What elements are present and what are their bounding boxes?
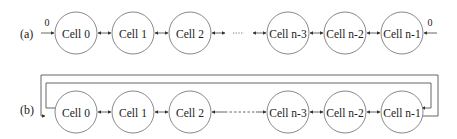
- wrap-loop-inner: [46, 83, 431, 108]
- cell-label: Cell 2: [176, 28, 204, 40]
- right-boundary-value: 0: [428, 17, 433, 28]
- row-a-label: (a): [20, 27, 33, 41]
- row-b: (b) Cell 0 Cell 1 Cell 2 Cell n-3 Cell n…: [20, 75, 438, 133]
- cell-label: Cell n-2: [326, 107, 364, 119]
- row-a: (a) 0 Cell 0 Cell 1 Cell 2 Cell n-3 Cell…: [20, 12, 437, 54]
- cell-label: Cell n-2: [326, 28, 364, 40]
- cell-node: Cell 2: [169, 12, 211, 54]
- cell-node: Cell n-3: [267, 91, 309, 133]
- cell-node: Cell n-2: [324, 91, 366, 133]
- cell-node: Cell n-1: [381, 12, 423, 54]
- cell-node: Cell n-1: [381, 91, 423, 133]
- cell-label: Cell n-3: [269, 28, 307, 40]
- cell-node: Cell 2: [169, 91, 211, 133]
- cell-node: Cell n-2: [324, 12, 366, 54]
- cell-label: Cell 0: [62, 28, 90, 40]
- cell-label: Cell n-1: [383, 107, 421, 119]
- cell-label: Cell n-3: [269, 107, 307, 119]
- left-boundary-value: 0: [45, 17, 50, 28]
- wrap-loop-outer: [41, 75, 438, 116]
- row-b-label: (b): [20, 103, 34, 117]
- cell-label: Cell 1: [119, 107, 147, 119]
- cell-node: Cell n-3: [267, 12, 309, 54]
- cell-node: Cell 1: [112, 91, 154, 133]
- cell-label: Cell n-1: [383, 28, 421, 40]
- cellular-chain-diagram: (a) 0 Cell 0 Cell 1 Cell 2 Cell n-3 Cell…: [0, 0, 457, 139]
- cell-node: Cell 0: [55, 12, 97, 54]
- cell-label: Cell 0: [62, 107, 90, 119]
- cell-label: Cell 2: [176, 107, 204, 119]
- cell-node: Cell 0: [55, 91, 97, 133]
- cell-label: Cell 1: [119, 28, 147, 40]
- cell-node: Cell 1: [112, 12, 154, 54]
